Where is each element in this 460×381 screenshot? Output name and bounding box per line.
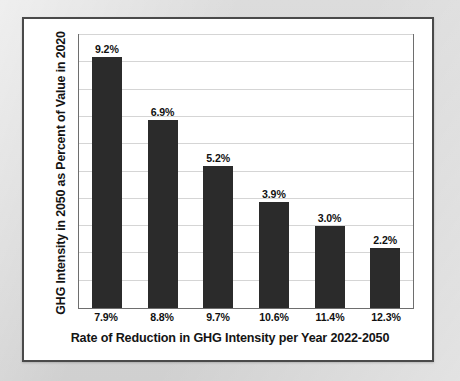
bar-value-label: 3.9%: [262, 188, 286, 200]
bar-slot: 9.2%: [79, 35, 135, 308]
bar[interactable]: 3.0%: [315, 226, 345, 308]
bar[interactable]: 3.9%: [259, 202, 289, 308]
x-tick-label: 11.4%: [302, 311, 358, 329]
bar-slot: 2.2%: [357, 35, 413, 308]
x-tick-label: 9.7%: [190, 311, 246, 329]
bar-value-label: 5.2%: [206, 152, 230, 164]
bar[interactable]: 2.2%: [370, 248, 400, 308]
x-axis-tick-labels: 7.9%8.8%9.7%10.6%11.4%12.3%: [78, 311, 414, 329]
plot-area: 9.2%6.9%5.2%3.9%3.0%2.2%: [78, 34, 414, 309]
bar-series: 9.2%6.9%5.2%3.9%3.0%2.2%: [79, 35, 413, 308]
bar-value-label: 3.0%: [318, 212, 342, 224]
bar[interactable]: 6.9%: [148, 120, 178, 308]
x-tick-label: 8.8%: [134, 311, 190, 329]
bar-value-label: 2.2%: [373, 234, 397, 246]
bar-value-label: 9.2%: [95, 43, 119, 55]
bar-slot: 6.9%: [135, 35, 191, 308]
y-axis-title: GHG Intensity in 2050 as Percent of Valu…: [50, 23, 72, 323]
bar[interactable]: 9.2%: [92, 57, 122, 308]
bar-slot: 3.0%: [302, 35, 358, 308]
x-tick-label: 12.3%: [358, 311, 414, 329]
bar[interactable]: 5.2%: [203, 166, 233, 308]
bar-slot: 5.2%: [190, 35, 246, 308]
x-tick-label: 10.6%: [246, 311, 302, 329]
chart-figure-frame: GHG Intensity in 2050 as Percent of Valu…: [22, 17, 434, 362]
bar-slot: 3.9%: [246, 35, 302, 308]
x-axis-title: Rate of Reduction in GHG Intensity per Y…: [44, 331, 416, 345]
x-tick-label: 7.9%: [78, 311, 134, 329]
bar-value-label: 6.9%: [151, 106, 175, 118]
